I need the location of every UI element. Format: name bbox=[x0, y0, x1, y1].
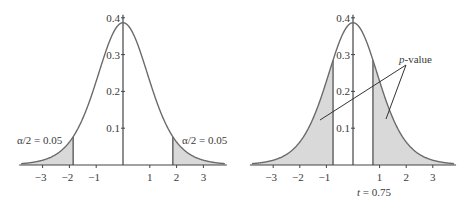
x-tick-label: −3 bbox=[265, 171, 277, 183]
y-tick-label: 0.3 bbox=[336, 49, 350, 61]
y-tick-label: 0.3 bbox=[106, 49, 120, 61]
y-tick-label: 0.1 bbox=[336, 122, 350, 134]
p-value-label: p-value bbox=[398, 53, 432, 65]
x-tick-label: 1 bbox=[147, 171, 153, 183]
y-tick-label: 0.2 bbox=[336, 85, 350, 97]
t-statistic-label: t = 0.75 bbox=[357, 186, 392, 198]
x-tick-label: −1 bbox=[88, 171, 100, 183]
y-tick-label: 0.2 bbox=[106, 85, 120, 97]
x-tick-label: −2 bbox=[292, 171, 304, 183]
x-tick-label: −2 bbox=[62, 171, 74, 183]
y-tick-label: 0.1 bbox=[106, 122, 120, 134]
x-tick-label: 2 bbox=[403, 171, 409, 183]
right-chart-p-value: −3−2−11230.10.20.30.4p-valuet = 0.75 bbox=[250, 12, 456, 198]
y-tick-label: 0.4 bbox=[336, 12, 350, 24]
p-value-pointer-right bbox=[386, 65, 406, 119]
x-tick-label: 2 bbox=[174, 171, 180, 183]
t-distribution-figure: −3−2−11230.10.20.30.4α/2 = 0.05α/2 = 0.0… bbox=[0, 0, 470, 203]
right-tail-alpha-label: α/2 = 0.05 bbox=[182, 134, 228, 146]
x-tick-label: 1 bbox=[377, 171, 383, 183]
x-tick-label: 3 bbox=[430, 171, 436, 183]
left-tail-alpha-label: α/2 = 0.05 bbox=[17, 134, 63, 146]
y-tick-label: 0.4 bbox=[106, 12, 120, 24]
x-tick-label: −3 bbox=[35, 171, 47, 183]
x-tick-label: −1 bbox=[319, 171, 331, 183]
x-tick-label: 3 bbox=[201, 171, 207, 183]
left-chart-critical-region: −3−2−11230.10.20.30.4α/2 = 0.05α/2 = 0.0… bbox=[17, 12, 228, 183]
